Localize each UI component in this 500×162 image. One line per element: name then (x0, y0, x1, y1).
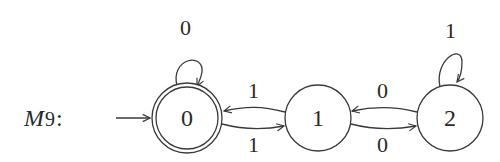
state-0-label: 0 (181, 105, 193, 131)
state-0: 0 (152, 83, 222, 153)
edge-label-0-1: 1 (248, 132, 259, 157)
edge-1-to-0 (224, 107, 285, 112)
state-1-label: 1 (312, 105, 324, 131)
edge-label-2-1: 0 (377, 78, 388, 103)
edge-label-1-2: 0 (377, 132, 388, 157)
edge-label-2-2: 1 (445, 18, 456, 43)
state-2-label: 2 (444, 105, 456, 131)
state-1: 1 (285, 85, 351, 151)
automaton-diagram: M 9 : 0 1 1 0 0 1 0 1 2 (0, 0, 500, 162)
edge-1-to-2 (351, 124, 416, 129)
self-loop-2 (439, 54, 462, 87)
edge-label-1-0: 1 (248, 78, 259, 103)
machine-label: M (23, 105, 46, 131)
self-loop-0 (176, 60, 202, 86)
machine-colon: : (56, 105, 63, 131)
edge-0-to-1 (222, 124, 284, 129)
machine-subscript: 9 (45, 108, 55, 130)
edge-2-to-1 (352, 107, 417, 112)
state-2: 2 (417, 85, 483, 151)
edge-label-0-0: 0 (180, 15, 191, 40)
